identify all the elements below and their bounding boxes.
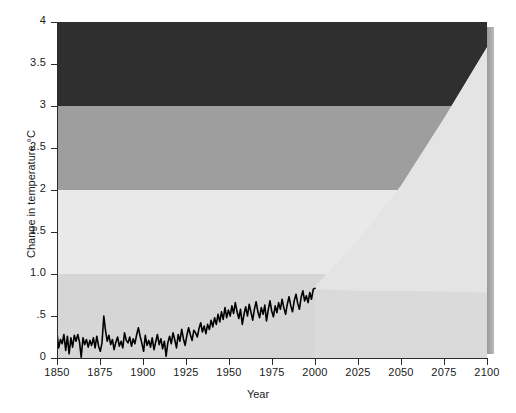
x-tick-1850 bbox=[57, 359, 58, 365]
y-tick-.5 bbox=[51, 316, 57, 317]
x-tick-2025 bbox=[358, 359, 359, 365]
y-tick-2.5 bbox=[51, 148, 57, 149]
plot-area bbox=[57, 22, 487, 358]
y-tick-label-1.5: 1.5 bbox=[0, 224, 46, 236]
y-tick-label-2: 2 bbox=[0, 182, 46, 194]
y-tick-2 bbox=[51, 190, 57, 191]
x-tick-1875 bbox=[100, 359, 101, 365]
x-tick-2050 bbox=[401, 359, 402, 365]
x-tick-1900 bbox=[143, 359, 144, 365]
plot-bevel-cap bbox=[487, 354, 495, 359]
x-tick-1950 bbox=[229, 359, 230, 365]
y-axis-line bbox=[57, 22, 58, 359]
y-tick-label-.5: .5 bbox=[0, 308, 46, 320]
y-tick-label-3.5: 3.5 bbox=[0, 56, 46, 68]
plot-canvas bbox=[57, 22, 487, 358]
y-tick-3 bbox=[51, 106, 57, 107]
y-tick-1.5 bbox=[51, 232, 57, 233]
y-tick-0 bbox=[51, 358, 57, 359]
projection-lower-region bbox=[315, 289, 487, 358]
y-tick-label-1.0: 1.0 bbox=[0, 266, 46, 278]
y-tick-label-4: 4 bbox=[0, 14, 46, 26]
x-tick-1925 bbox=[186, 359, 187, 365]
x-tick-label-2100: 2100 bbox=[457, 366, 516, 378]
x-tick-1975 bbox=[272, 359, 273, 365]
x-tick-2000 bbox=[315, 359, 316, 365]
y-axis-title: Change in temperature °C bbox=[25, 84, 37, 304]
plot-bevel-right bbox=[487, 27, 494, 358]
severe-band bbox=[57, 22, 487, 106]
x-axis-title: Year bbox=[0, 388, 516, 400]
y-tick-label-3: 3 bbox=[0, 98, 46, 110]
y-tick-4 bbox=[51, 22, 57, 23]
climate-projection-chart: 1850187519001925195019752000202520502075… bbox=[0, 0, 516, 413]
x-tick-2075 bbox=[444, 359, 445, 365]
y-tick-label-0: 0 bbox=[0, 350, 46, 362]
y-tick-3.5 bbox=[51, 64, 57, 65]
y-tick-1.0 bbox=[51, 274, 57, 275]
x-tick-2100 bbox=[487, 359, 488, 365]
y-tick-label-2.5: 2.5 bbox=[0, 140, 46, 152]
